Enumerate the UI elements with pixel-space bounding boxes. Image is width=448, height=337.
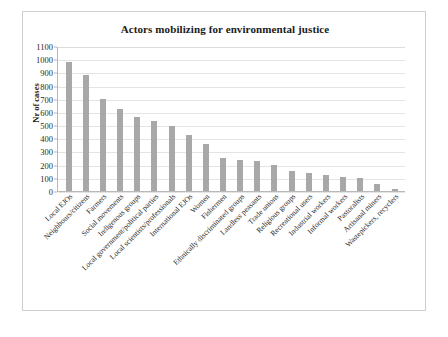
y-axis-tick: 600 [40, 108, 53, 118]
y-axis-tick: 300 [40, 147, 53, 157]
y-axis-tick-labels: 110010009008007006005004003002001000 [23, 47, 55, 192]
bar-slot [232, 47, 249, 191]
y-axis-tick: 500 [40, 121, 53, 131]
y-axis-tick: 900 [40, 68, 53, 78]
y-axis-tick: 1100 [36, 42, 53, 52]
y-axis-tick: 400 [40, 134, 53, 144]
bar-slot [60, 47, 77, 191]
bar [66, 62, 72, 191]
y-axis-tick: 200 [40, 161, 53, 171]
y-axis-tick: 700 [40, 95, 53, 105]
y-axis-tick: 100 [40, 174, 53, 184]
y-axis-tick: 800 [40, 82, 53, 92]
y-axis-tick: 0 [49, 187, 53, 197]
y-axis-tick: 1000 [36, 55, 53, 65]
chart-frame: Actors mobilizing for environmental just… [22, 11, 426, 311]
chart-title: Actors mobilizing for environmental just… [23, 23, 427, 35]
